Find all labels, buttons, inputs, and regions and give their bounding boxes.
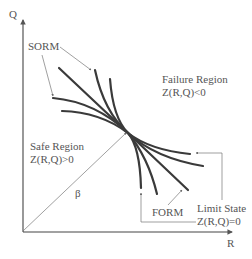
limit-state-title: Limit State	[197, 202, 246, 214]
sorm-label: SORM	[28, 40, 59, 52]
failure-region-title: Failure Region	[162, 73, 228, 85]
sorm-curve-1	[95, 70, 141, 188]
sorm-arrow-1	[60, 47, 91, 70]
safe-region-condition: Z(R,Q)>0	[30, 153, 74, 166]
limit-state-bracket-upper	[196, 153, 222, 200]
safe-region-title: Safe Region	[30, 140, 85, 152]
beta-label: β	[75, 187, 81, 199]
form-arrow	[168, 190, 182, 205]
sorm-arrow-2	[42, 55, 53, 96]
form-label: FORM	[152, 206, 183, 218]
reliability-diagram: Q R β SORM Failure Region Z(R,Q)<0 Safe …	[0, 0, 252, 259]
limit-state-condition: Z(R,Q)=0	[197, 215, 241, 228]
failure-region-condition: Z(R,Q)<0	[162, 86, 206, 99]
r-axis-label: R	[227, 237, 235, 249]
q-axis-label: Q	[9, 8, 17, 20]
